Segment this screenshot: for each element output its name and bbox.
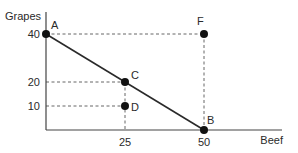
point-b-marker	[200, 126, 208, 134]
x-axis-label: Beef	[260, 134, 284, 146]
ppf-chart: A F C D B 40 20 10 25 50 Grapes Beef	[0, 0, 298, 153]
y-tick-20: 20	[28, 76, 40, 88]
point-f-label: F	[197, 15, 204, 27]
point-d-marker	[121, 102, 129, 110]
point-f-marker	[200, 30, 208, 38]
point-a-marker	[42, 30, 50, 38]
point-c-marker	[121, 78, 129, 86]
x-tick-50: 50	[198, 136, 210, 148]
x-tick-25: 25	[119, 136, 131, 148]
point-c-label: C	[131, 69, 139, 81]
point-a-label: A	[51, 19, 59, 31]
point-b-label: B	[207, 114, 214, 126]
point-d-label: D	[131, 101, 139, 113]
y-tick-10: 10	[28, 100, 40, 112]
y-axis-label: Grapes	[5, 10, 42, 22]
y-tick-40: 40	[28, 28, 40, 40]
